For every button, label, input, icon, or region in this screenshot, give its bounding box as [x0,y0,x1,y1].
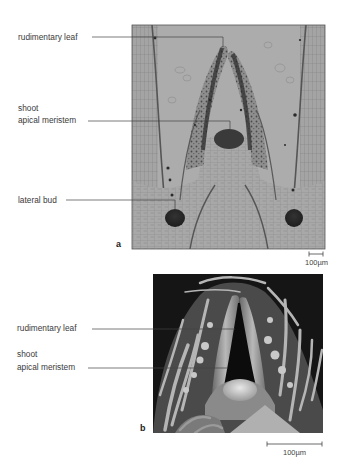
panel-letter-b: b [140,423,146,433]
label-shoot-a: shoot [18,103,38,113]
scale-bar-a [309,252,323,257]
scale-text-b: 100µm [283,448,306,457]
label-apical-meristem-a: apical meristem [18,115,76,125]
label-rudimentary-leaf-b: rudimentary leaf [17,323,77,333]
scale-bar-b [267,442,322,447]
label-apical-meristem-b: apical meristem [17,362,75,372]
panel-letter-a: a [116,239,121,249]
panel-b-micrograph [153,274,323,433]
label-shoot-b: shoot [17,349,37,359]
label-rudimentary-leaf-a: rudimentary leaf [18,32,78,42]
label-lateral-bud-a: lateral bud [18,195,57,205]
scale-text-a: 100µm [305,258,328,267]
panel-a-micrograph [132,25,325,249]
